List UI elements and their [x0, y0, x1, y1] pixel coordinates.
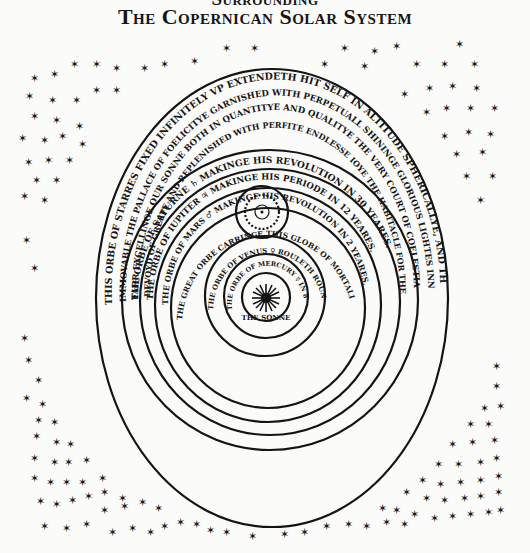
svg-text:✶: ✶: [492, 380, 501, 393]
svg-text:✶: ✶: [65, 154, 74, 167]
svg-text:✶: ✶: [72, 94, 81, 107]
svg-text:✶: ✶: [440, 58, 449, 71]
svg-text:✶: ✶: [472, 82, 481, 95]
sun-label: The Sonne: [242, 313, 291, 322]
svg-text:✶: ✶: [448, 80, 457, 93]
svg-text:✶: ✶: [92, 84, 101, 97]
svg-text:✶: ✶: [154, 502, 163, 515]
svg-text:✶: ✶: [176, 516, 185, 529]
svg-text:✶: ✶: [492, 360, 501, 373]
svg-text:✶: ✶: [62, 522, 71, 535]
svg-text:✶: ✶: [494, 470, 503, 483]
svg-text:✶: ✶: [434, 458, 443, 471]
svg-text:✶: ✶: [30, 262, 39, 275]
svg-text:✶: ✶: [82, 518, 91, 531]
svg-text:✶: ✶: [32, 430, 41, 443]
svg-text:✶: ✶: [478, 146, 487, 159]
svg-text:✶: ✶: [92, 58, 101, 71]
svg-text:✶: ✶: [392, 40, 401, 53]
svg-text:✶: ✶: [30, 472, 39, 485]
svg-text:✶: ✶: [50, 456, 59, 469]
svg-text:✶: ✶: [476, 474, 485, 487]
svg-text:✶: ✶: [140, 62, 149, 75]
svg-text:✶: ✶: [108, 526, 117, 539]
svg-text:✶: ✶: [480, 402, 489, 415]
svg-text:✶: ✶: [78, 138, 87, 151]
svg-text:✶: ✶: [430, 512, 439, 525]
svg-text:✶: ✶: [422, 106, 431, 119]
svg-text:✶: ✶: [486, 128, 495, 141]
svg-text:✶: ✶: [452, 148, 461, 161]
svg-text:✶: ✶: [340, 42, 349, 55]
svg-text:✶: ✶: [442, 102, 451, 115]
copernican-diagram: ✶ ✶ ✶ ✶ ✶ ✶ ✶ ✶ ✶ ✶ ✶ ✶ ✶ ✶ ✶ ✶ ✶ ✶ ✶ ✶ …: [0, 0, 530, 553]
svg-text:✶: ✶: [18, 132, 27, 145]
svg-text:✶: ✶: [382, 516, 391, 529]
svg-text:✶: ✶: [248, 530, 257, 543]
svg-text:✶: ✶: [120, 500, 129, 513]
svg-text:✶: ✶: [412, 58, 421, 71]
svg-text:✶: ✶: [462, 170, 471, 183]
svg-text:✶: ✶: [70, 58, 79, 71]
svg-text:✶: ✶: [418, 474, 427, 487]
svg-text:✶: ✶: [448, 438, 457, 451]
svg-text:✶: ✶: [466, 418, 475, 431]
svg-text:✶: ✶: [222, 42, 231, 55]
svg-text:✶: ✶: [30, 72, 39, 85]
svg-text:✶: ✶: [460, 492, 469, 505]
svg-text:✶: ✶: [494, 486, 503, 499]
svg-text:✶: ✶: [46, 476, 55, 489]
svg-text:✶: ✶: [40, 134, 49, 147]
svg-text:✶: ✶: [492, 452, 501, 465]
svg-text:✶: ✶: [392, 504, 401, 517]
svg-text:✶: ✶: [44, 154, 53, 167]
svg-text:✶: ✶: [52, 174, 61, 187]
svg-text:✶: ✶: [138, 496, 147, 509]
svg-text:✶: ✶: [425, 82, 434, 95]
svg-text:✶: ✶: [344, 518, 353, 531]
svg-text:✶: ✶: [370, 45, 379, 58]
svg-text:✶: ✶: [192, 518, 201, 531]
svg-text:✶: ✶: [468, 436, 477, 449]
svg-text:✶: ✶: [40, 194, 49, 207]
svg-text:✶: ✶: [20, 190, 29, 203]
sun-icon: [252, 284, 280, 312]
svg-text:✶: ✶: [476, 194, 485, 207]
svg-text:✶: ✶: [488, 170, 497, 183]
svg-text:✶: ✶: [58, 130, 67, 143]
svg-text:✶: ✶: [52, 436, 61, 449]
svg-text:✶: ✶: [448, 510, 457, 523]
svg-text:✶: ✶: [98, 472, 107, 485]
svg-text:✶: ✶: [22, 392, 31, 405]
svg-text:✶: ✶: [36, 495, 45, 508]
svg-text:✶: ✶: [320, 58, 329, 71]
svg-text:✶: ✶: [128, 522, 137, 535]
svg-text:✶: ✶: [38, 398, 47, 411]
svg-text:✶: ✶: [160, 520, 169, 533]
svg-text:✶: ✶: [24, 354, 33, 367]
svg-text:✶: ✶: [490, 434, 499, 447]
svg-text:✶: ✶: [84, 490, 93, 503]
svg-text:✶: ✶: [75, 120, 84, 133]
svg-text:✶: ✶: [52, 114, 61, 127]
svg-text:✶: ✶: [378, 502, 387, 515]
svg-text:✶: ✶: [496, 400, 505, 413]
svg-text:✶: ✶: [300, 526, 309, 539]
svg-text:✶: ✶: [496, 504, 505, 517]
svg-text:✶: ✶: [360, 60, 369, 73]
svg-text:✶: ✶: [34, 374, 43, 387]
svg-text:✶: ✶: [30, 110, 39, 123]
svg-text:✶: ✶: [62, 476, 71, 489]
svg-text:✶: ✶: [362, 520, 371, 533]
svg-text:✶: ✶: [454, 458, 463, 471]
svg-text:✶: ✶: [66, 438, 75, 451]
svg-text:✶: ✶: [112, 62, 121, 75]
svg-text:✶: ✶: [476, 490, 485, 503]
mars-orbit: [155, 188, 381, 422]
svg-text:✶: ✶: [64, 456, 73, 469]
svg-text:✶: ✶: [456, 476, 465, 489]
svg-text:✶: ✶: [78, 476, 87, 489]
svg-text:✶: ✶: [322, 520, 331, 533]
svg-text:✶: ✶: [40, 520, 49, 533]
svg-text:✶: ✶: [25, 90, 34, 103]
